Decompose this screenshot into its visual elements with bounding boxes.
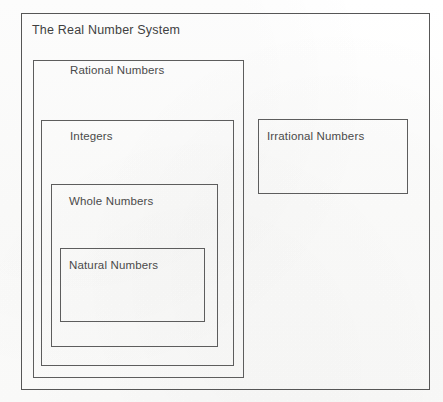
set-label-integers: Integers [70,130,113,143]
real-number-system-diagram: The Real Number System Rational Numbers … [0,0,443,402]
set-label-whole-numbers: Whole Numbers [69,195,153,208]
set-label-natural-numbers: Natural Numbers [69,259,158,272]
set-label-rational-numbers: Rational Numbers [70,64,164,77]
set-label-real-numbers: The Real Number System [32,24,180,37]
set-label-irrational-numbers: Irrational Numbers [267,130,364,143]
